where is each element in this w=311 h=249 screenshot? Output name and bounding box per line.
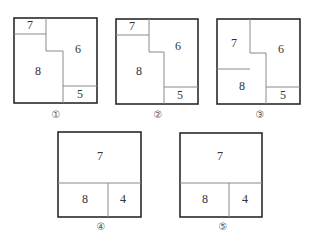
figure-1-region-label: 5 xyxy=(77,87,83,101)
figure-2-caption: ② xyxy=(154,109,163,120)
figure-3-region-label: 8 xyxy=(239,79,245,93)
figure-5-region-label: 7 xyxy=(217,149,223,163)
figure-4-caption: ④ xyxy=(97,221,106,232)
figure-1-region-label: 8 xyxy=(35,64,41,78)
figure-4-outer-square xyxy=(58,132,141,217)
figure-3-caption: ③ xyxy=(256,109,265,120)
partition-diagrams: 7 6 8 5 ① 7 6 8 5 ② 7 6 8 5 ③ 7 8 4 ④ xyxy=(0,0,311,249)
figure-1-region-label: 6 xyxy=(75,42,81,56)
figure-4-region-label: 7 xyxy=(97,149,103,163)
figure-4-region-label: 8 xyxy=(82,192,88,206)
figure-4: 7 8 4 ④ xyxy=(58,132,141,232)
figure-3-region-label: 5 xyxy=(280,88,286,102)
figure-3-divider-stepped xyxy=(250,19,266,104)
figure-5-region-label: 4 xyxy=(242,192,248,206)
figure-5-outer-square xyxy=(180,133,262,217)
figure-3-region-label: 7 xyxy=(231,36,237,50)
figure-2: 7 6 8 5 ② xyxy=(116,19,198,120)
figure-1-caption: ① xyxy=(52,109,61,120)
figure-5-region-label: 8 xyxy=(202,192,208,206)
figure-2-divider-stepped xyxy=(149,19,164,104)
figure-2-region-label: 7 xyxy=(129,19,135,33)
figure-1-region-label: 7 xyxy=(27,18,33,32)
figure-2-region-label: 5 xyxy=(177,88,183,102)
figure-5: 7 8 4 ⑤ xyxy=(180,133,262,232)
figure-2-region-label: 6 xyxy=(175,39,181,53)
figure-1: 7 6 8 5 ① xyxy=(14,18,97,120)
figure-3-region-label: 6 xyxy=(278,42,284,56)
figure-1-divider-stepped xyxy=(46,18,63,103)
figure-4-region-label: 4 xyxy=(120,192,126,206)
figure-2-region-label: 8 xyxy=(136,64,142,78)
figure-5-caption: ⑤ xyxy=(219,221,228,232)
figure-3: 7 6 8 5 ③ xyxy=(217,19,300,120)
figure-3-outer-square xyxy=(217,19,300,104)
